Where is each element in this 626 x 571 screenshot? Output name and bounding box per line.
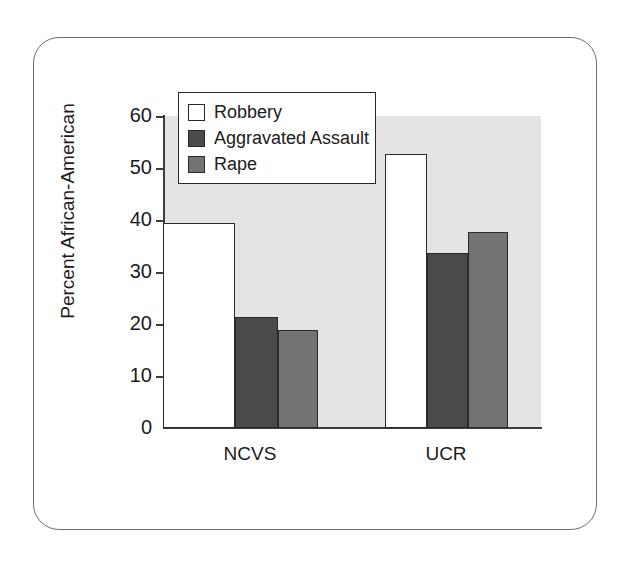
bar-ncvs-robbery [163, 223, 235, 428]
chart-legend: Robbery Aggravated Assault Rape [178, 92, 376, 184]
x-category-label-ucr: UCR [371, 443, 521, 465]
legend-label-rape: Rape [214, 155, 257, 173]
legend-item-rape: Rape [188, 151, 375, 177]
legend-swatch-aggravated-assault [188, 130, 205, 147]
legend-swatch-rape [188, 156, 205, 173]
legend-label-aggravated-assault: Aggravated Assault [214, 129, 369, 147]
bars-layer [0, 0, 626, 428]
bar-ncvs-rape [278, 330, 318, 428]
bar-ucr-rape [468, 232, 508, 428]
legend-swatch-robbery [188, 104, 205, 121]
bar-ncvs-aggravated-assault [235, 317, 278, 428]
legend-label-robbery: Robbery [214, 103, 282, 121]
x-category-label-ncvs: NCVS [175, 443, 325, 465]
bar-ucr-robbery [385, 154, 427, 428]
legend-item-robbery: Robbery [188, 99, 375, 125]
bar-ucr-aggravated-assault [427, 253, 468, 428]
legend-item-aggravated-assault: Aggravated Assault [188, 125, 375, 151]
